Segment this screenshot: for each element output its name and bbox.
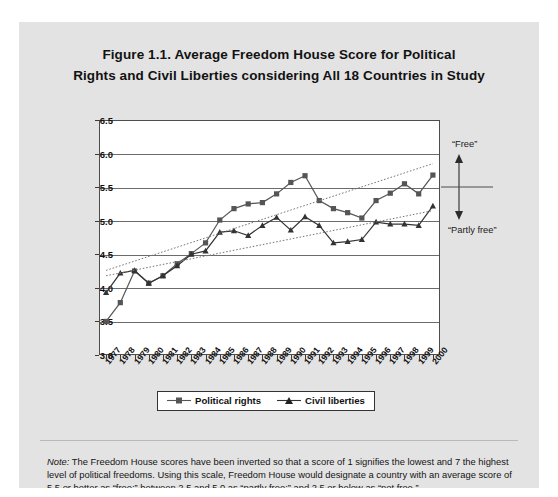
legend-item-civil-liberties: Civil liberties xyxy=(277,395,365,406)
chart-legend: Political rights Civil liberties xyxy=(157,391,375,411)
x-axis-tick-mark xyxy=(262,355,263,359)
data-point-marker xyxy=(231,206,236,211)
x-axis-tick-mark xyxy=(135,355,136,359)
legend-item-political-rights: Political rights xyxy=(167,395,261,406)
y-axis-tick-mark xyxy=(95,355,99,356)
series-layer xyxy=(99,120,440,355)
x-axis-tick-mark xyxy=(149,355,150,359)
x-axis-tick-mark xyxy=(291,355,292,359)
x-axis-tick-mark xyxy=(433,355,434,359)
x-axis-tick-mark xyxy=(319,355,320,359)
data-point-marker xyxy=(430,172,435,177)
data-point-marker xyxy=(260,200,265,205)
data-point-marker xyxy=(416,191,421,196)
data-point-marker xyxy=(345,210,350,215)
x-axis-tick-mark xyxy=(277,355,278,359)
data-point-marker xyxy=(203,240,208,245)
x-axis-tick-mark xyxy=(419,355,420,359)
data-point-marker xyxy=(246,201,251,206)
series-line-civil-liberties xyxy=(106,206,433,293)
x-axis-tick-mark xyxy=(234,355,235,359)
x-axis-tick-mark xyxy=(120,355,121,359)
x-axis-tick-mark xyxy=(191,355,192,359)
data-point-marker xyxy=(373,219,379,225)
figure-title-line1: Figure 1.1. Average Freedom House Score … xyxy=(19,44,539,65)
chart-area: 3.03.54.04.55.05.56.06.5 197719781979198… xyxy=(41,97,517,417)
figure-container: Figure 1.1. Average Freedom House Score … xyxy=(19,22,539,488)
legend-label-political-rights: Political rights xyxy=(195,395,261,406)
x-axis-tick-mark xyxy=(404,355,405,359)
x-axis-tick-mark xyxy=(106,355,107,359)
x-axis-tick-mark xyxy=(305,355,306,359)
series-line-political-rights xyxy=(106,175,433,321)
legend-triangle-marker-icon xyxy=(277,396,301,405)
x-axis-tick-mark xyxy=(348,355,349,359)
data-point-marker xyxy=(288,180,293,185)
data-point-marker xyxy=(217,217,222,222)
data-point-marker xyxy=(274,191,279,196)
x-axis-tick-mark xyxy=(206,355,207,359)
figure-title: Figure 1.1. Average Freedom House Score … xyxy=(19,44,539,86)
legend-square-marker-icon xyxy=(167,396,191,405)
x-axis-tick-mark xyxy=(220,355,221,359)
threshold-arrow-icon xyxy=(441,152,511,232)
trendline-political-rights xyxy=(106,164,433,271)
data-point-marker xyxy=(430,203,436,209)
data-point-marker xyxy=(259,222,265,228)
data-point-marker xyxy=(331,206,336,211)
data-point-marker xyxy=(104,319,109,324)
note-body: The Freedom House scores have been inver… xyxy=(47,456,512,488)
data-point-marker xyxy=(317,198,322,203)
figure-title-line2: Rights and Civil Liberties considering A… xyxy=(19,65,539,86)
trendline-civil-liberties xyxy=(106,211,433,276)
x-axis-tick-mark xyxy=(376,355,377,359)
data-point-marker xyxy=(402,181,407,186)
note-divider xyxy=(40,440,518,441)
x-axis-tick-mark xyxy=(248,355,249,359)
free-annotation: “Free” xyxy=(452,139,477,149)
data-point-marker xyxy=(388,191,393,196)
x-axis-tick-mark xyxy=(390,355,391,359)
note-prefix: Note: xyxy=(47,456,69,467)
x-axis-tick-mark xyxy=(333,355,334,359)
data-point-marker xyxy=(118,300,123,305)
x-axis-tick-mark xyxy=(362,355,363,359)
x-axis-tick-mark xyxy=(163,355,164,359)
data-point-marker xyxy=(373,198,378,203)
data-point-marker xyxy=(316,222,322,228)
data-point-marker xyxy=(302,213,308,219)
data-point-marker xyxy=(359,215,364,220)
data-point-marker xyxy=(302,173,307,178)
legend-label-civil-liberties: Civil liberties xyxy=(305,395,365,406)
figure-note: Note: The Freedom House scores have been… xyxy=(47,455,515,488)
x-axis-tick-mark xyxy=(177,355,178,359)
